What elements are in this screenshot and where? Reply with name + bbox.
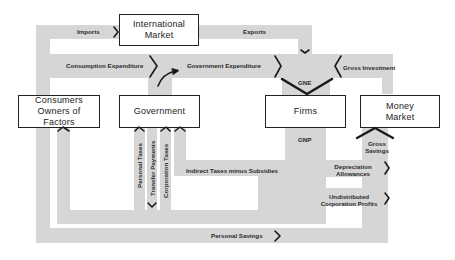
international-market-label: International Market <box>129 19 189 41</box>
imports-label: Imports <box>77 28 100 35</box>
band-factor-income-bottom <box>57 210 285 224</box>
gross-savings-label: Gross Savings <box>364 140 390 154</box>
gross-savings-line1: Gross <box>364 140 390 147</box>
exports-label: Exports <box>243 28 266 35</box>
money-market-box: Money Market <box>360 95 440 128</box>
gross-investment-label: Gross Investment <box>343 64 395 71</box>
international-market-box: International Market <box>119 14 199 46</box>
band-undistributed-link <box>308 188 318 224</box>
band-exports-down <box>298 25 312 55</box>
consumers-label: Consumers Owners of Factors <box>28 95 90 128</box>
depreciation-line1: Depreciation <box>330 163 376 170</box>
band-gross-investment-down2 <box>382 54 393 94</box>
indirect-taxes-label: Indirect Taxes minus Subsidies <box>186 167 278 174</box>
consumption-expenditure-label: Consumption Expenditure <box>66 62 143 69</box>
firms-box: Firms <box>265 95 346 128</box>
government-label: Government <box>134 106 186 117</box>
depreciation-label: Depreciation Allowances <box>330 163 376 177</box>
gnp-label: GNP <box>298 136 311 143</box>
undistributed-line1: Undistributed <box>318 193 380 200</box>
consumers-box: Consumers Owners of Factors <box>18 95 100 128</box>
corporation-taxes-label: Corporation Taxes <box>162 144 169 198</box>
undistributed-line2: Corporation Profits <box>318 200 380 207</box>
gne-label: GNE <box>298 79 311 86</box>
government-box: Government <box>119 95 200 128</box>
government-expenditure-label: Government Expenditure <box>187 62 261 69</box>
band-gov-exp-down <box>148 78 172 95</box>
gross-savings-line2: Savings <box>364 147 390 154</box>
personal-taxes-label: Personal Taxes <box>136 143 143 188</box>
transfer-payments-label: Transfer Payments <box>149 141 156 196</box>
money-market-label: Money Market <box>380 101 420 123</box>
depreciation-line2: Allowances <box>330 170 376 177</box>
personal-savings-label: Personal Savings <box>211 232 263 239</box>
band-outer-left-lower <box>36 128 50 243</box>
firms-label: Firms <box>294 106 318 117</box>
undistributed-label: Undistributed Corporation Profits <box>318 193 380 207</box>
